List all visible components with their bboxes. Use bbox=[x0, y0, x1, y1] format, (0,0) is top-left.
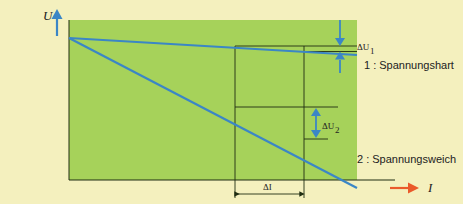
curve-2-label: 2 : Spannungsweich bbox=[357, 153, 456, 165]
x-axis-arrow-icon bbox=[390, 183, 419, 194]
delta-u1-sub: 1 bbox=[370, 46, 375, 56]
x-axis-label: I bbox=[427, 180, 433, 195]
y-axis-arrow-icon bbox=[52, 9, 63, 36]
y-axis-label: U bbox=[43, 8, 54, 23]
delta-u2-sub: 2 bbox=[335, 125, 340, 135]
curve-1-label: 1 : Spannungshart bbox=[364, 59, 454, 71]
delta-u1-label: ΔU bbox=[357, 42, 370, 52]
characteristic-diagram: U I ΔU 1 ΔU 2 ΔI 1 : Spannungshart bbox=[0, 0, 463, 204]
delta-i-label: ΔI bbox=[263, 182, 272, 192]
delta-u2-label: ΔU bbox=[322, 121, 335, 131]
plot-area bbox=[69, 20, 357, 180]
